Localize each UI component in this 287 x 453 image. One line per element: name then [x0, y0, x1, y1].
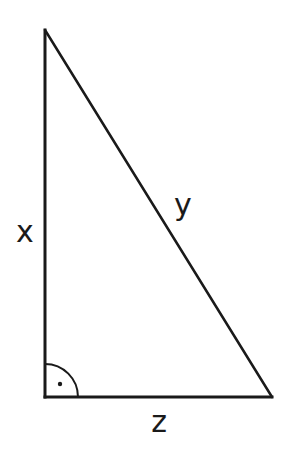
label-y: y — [174, 187, 192, 222]
diagram-canvas: x y z — [0, 0, 287, 453]
right-triangle-diagram: x y z — [0, 0, 287, 453]
right-angle-arc — [45, 364, 78, 397]
side-y-hypotenuse — [45, 30, 272, 397]
right-angle-dot — [58, 382, 62, 386]
label-x: x — [16, 214, 34, 249]
label-z: z — [151, 404, 167, 439]
